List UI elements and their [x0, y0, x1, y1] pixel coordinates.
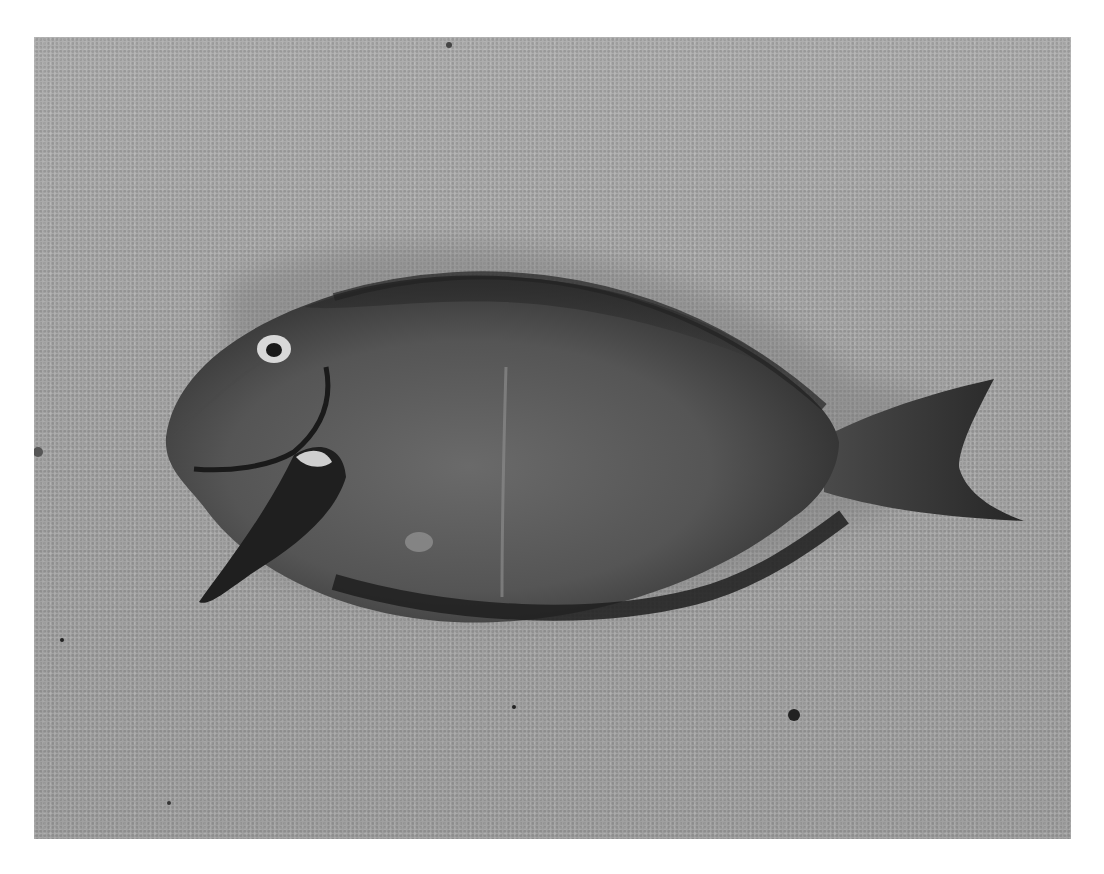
- caption: [34, 866, 1071, 874]
- fish-illustration: [34, 37, 1071, 839]
- fish-eye: [257, 335, 291, 363]
- photograph: [34, 37, 1071, 839]
